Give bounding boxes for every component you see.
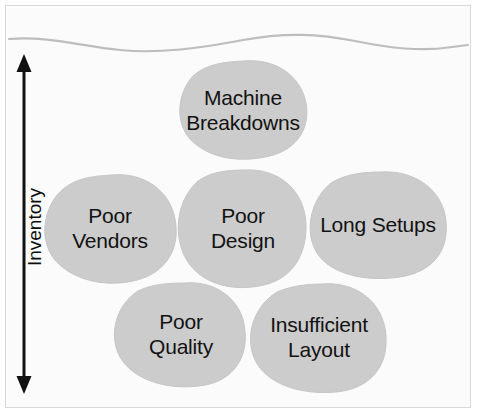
- rock-insufficient-layout[interactable]: [251, 284, 387, 393]
- rocks-group: [45, 61, 447, 393]
- rock-poor-design[interactable]: [178, 170, 306, 288]
- rock-poor-vendors[interactable]: [45, 175, 176, 284]
- rock-long-setups[interactable]: [310, 172, 446, 279]
- diagram-canvas: [0, 0, 478, 415]
- inventory-axis-label: Inventory: [24, 172, 46, 282]
- rock-poor-quality[interactable]: [114, 283, 245, 387]
- diagram-stage: Machine Breakdowns Poor Vendors Poor Des…: [0, 0, 478, 415]
- rock-machine-breakdowns[interactable]: [180, 61, 307, 160]
- water-level-line: [9, 35, 468, 51]
